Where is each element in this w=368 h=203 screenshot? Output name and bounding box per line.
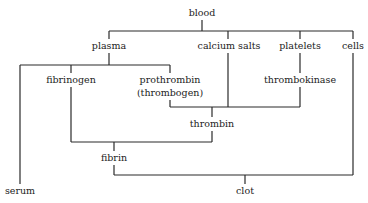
node-calcium-salts: calcium salts <box>198 41 261 51</box>
node-prothrombin: prothrombin <box>140 75 201 85</box>
node-prothrombin-alt: (thrombogen) <box>137 88 203 98</box>
node-plasma: plasma <box>92 41 126 51</box>
node-serum: serum <box>5 186 35 196</box>
connector-lines <box>0 0 368 203</box>
node-platelets: platelets <box>279 41 321 51</box>
node-blood: blood <box>189 8 216 18</box>
node-clot: clot <box>236 186 254 196</box>
node-cells: cells <box>342 41 364 51</box>
blood-clotting-diagram: blood plasma calcium salts platelets cel… <box>0 0 368 203</box>
node-thrombokinase: thrombokinase <box>264 75 336 85</box>
node-thrombin: thrombin <box>190 119 234 129</box>
node-fibrin: fibrin <box>101 153 127 163</box>
node-fibrinogen: fibrinogen <box>46 75 96 85</box>
